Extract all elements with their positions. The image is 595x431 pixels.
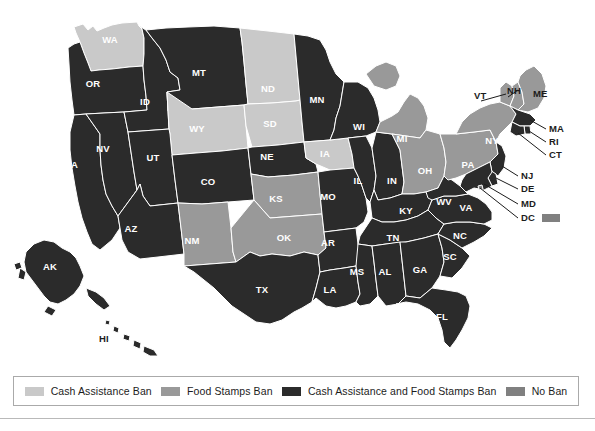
state-label-MI: MI (397, 133, 408, 144)
state-label-KY: KY (399, 205, 413, 216)
state-label-LA: LA (323, 284, 336, 295)
state-label-IN: IN (387, 175, 397, 186)
state-label-WY: WY (189, 123, 205, 134)
state-label-AK: AK (43, 261, 57, 272)
leader-line-RI (529, 131, 546, 142)
leader-line-NJ (502, 166, 518, 176)
state-label-IL: IL (354, 175, 363, 186)
leader-line-DE (496, 178, 518, 189)
state-callout-label-RI: RI (549, 136, 559, 147)
state-label-OK: OK (277, 232, 292, 243)
state-callout-label-MD: MD (521, 198, 536, 209)
state-label-AZ: AZ (124, 223, 137, 234)
state-label-FL: FL (436, 311, 448, 322)
state-HI[interactable] (105, 320, 158, 356)
state-label-MO: MO (320, 191, 336, 202)
state-callout-label-DE: DE (521, 183, 535, 194)
state-label-WV: WV (436, 196, 452, 207)
map-figure: WA OR MT ID ND MN WY SD WI MI NV UT IA N… (0, 0, 595, 431)
state-label-MN: MN (309, 94, 324, 105)
state-label-GA: GA (413, 264, 428, 275)
map-legend: Cash Assistance Ban Food Stamps Ban Cash… (13, 376, 579, 406)
state-callout-label-DC: DC (521, 212, 535, 223)
legend-swatch-food-stamps-ban (161, 387, 180, 396)
state-label-KS: KS (269, 193, 283, 204)
legend-label-food-stamps-ban: Food Stamps Ban (187, 385, 273, 397)
state-callout-label-NH: NH (507, 85, 521, 96)
dc-color-swatch (542, 214, 560, 222)
state-label-AR: AR (321, 237, 335, 248)
state-label-OR: OR (86, 78, 101, 89)
state-label-AL: AL (378, 266, 391, 277)
state-label-SC: SC (443, 251, 457, 262)
state-label-WA: WA (102, 34, 118, 45)
us-choropleth-map: WA OR MT ID ND MN WY SD WI MI NV UT IA N… (0, 0, 595, 360)
legend-label-no-ban: No Ban (532, 385, 568, 397)
legend-swatch-cash-and-food-stamps-ban (282, 387, 301, 396)
leader-line-CT (518, 133, 546, 155)
state-label-TX: TX (256, 284, 269, 295)
state-label-NM: NM (184, 235, 199, 246)
state-label-UT: UT (146, 152, 159, 163)
leader-line-MA (530, 120, 546, 129)
state-label-CA: CA (64, 159, 78, 170)
state-callout-label-NJ: NJ (521, 170, 534, 181)
legend-label-cash-and-food-stamps-ban: Cash Assistance and Food Stamps Ban (308, 385, 497, 397)
state-callout-label-ME: ME (533, 88, 548, 99)
state-label-NC: NC (453, 230, 467, 241)
legend-item-food-stamps-ban[interactable]: Food Stamps Ban (161, 385, 273, 397)
state-label-PA: PA (462, 159, 475, 170)
state-label-CO: CO (201, 176, 216, 187)
legend-item-cash-assistance-ban[interactable]: Cash Assistance Ban (25, 385, 152, 397)
state-callout-label-CT: CT (549, 149, 562, 160)
state-label-WI: WI (353, 121, 365, 132)
state-callout-label-MA: MA (549, 123, 564, 134)
state-label-OH: OH (418, 165, 433, 176)
legend-label-cash-assistance-ban: Cash Assistance Ban (51, 385, 152, 397)
state-FL[interactable] (396, 288, 470, 348)
legend-items: Cash Assistance Ban Food Stamps Ban Cash… (14, 385, 578, 397)
state-AK[interactable] (14, 240, 110, 316)
state-label-HI: HI (99, 333, 109, 344)
legend-swatch-no-ban (506, 387, 525, 396)
state-label-SD: SD (263, 118, 277, 129)
state-label-MT: MT (192, 67, 206, 78)
state-label-NV: NV (96, 143, 110, 154)
state-label-TN: TN (386, 232, 399, 243)
state-callout-label-VT: VT (474, 90, 487, 101)
state-label-ID: ID (140, 96, 150, 107)
state-label-NE: NE (260, 151, 274, 162)
legend-item-no-ban[interactable]: No Ban (506, 385, 568, 397)
state-label-VA: VA (460, 202, 473, 213)
state-label-IA: IA (320, 148, 330, 159)
state-label-ND: ND (261, 83, 275, 94)
page-bottom-rule (0, 418, 595, 419)
legend-swatch-cash-assistance-ban (25, 387, 44, 396)
legend-item-cash-and-food-stamps-ban[interactable]: Cash Assistance and Food Stamps Ban (282, 385, 497, 397)
state-label-NY: NY (485, 135, 499, 146)
state-label-MS: MS (350, 266, 365, 277)
